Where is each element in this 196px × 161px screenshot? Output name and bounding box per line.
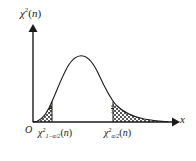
right-tail-numerator: α	[111, 103, 114, 108]
left-tail-denominator: 2	[49, 109, 52, 114]
left-tail-numerator: α	[49, 103, 52, 108]
x-axis-arrowhead	[172, 118, 180, 127]
chi-square-distribution-figure: χ2(chi-square probability density functi…	[0, 0, 196, 161]
right-tick-superscript: 2	[108, 126, 111, 133]
left-tick-argument: (n)	[60, 127, 72, 138]
left-tick-subscript: 1−α/2	[46, 133, 61, 139]
left-tail-shaded-region	[33, 56, 168, 122]
right-tail-shaded-region	[33, 56, 168, 122]
y-axis-label-argument: (chi-square probability density function…	[28, 7, 41, 19]
right-tick-argument: (n)	[119, 127, 131, 138]
density-curve	[33, 56, 168, 122]
left-tail-area-label: α 2	[49, 103, 52, 115]
right-tail-denominator: 2	[111, 109, 114, 114]
tick-label-left-critical-value: χ21−α/2(n)	[38, 126, 72, 139]
plot-canvas	[0, 0, 196, 161]
y-axis-label: χ2(chi-square probability density functi…	[20, 6, 41, 19]
y-axis-arrowhead	[29, 24, 38, 32]
tick-label-right-critical-value: χ2α/2(n)	[104, 126, 131, 139]
x-axis-label: x	[180, 113, 185, 125]
left-tick-superscript: 2	[42, 126, 45, 133]
right-tail-area-label: α 2	[111, 103, 114, 115]
origin-label: O	[25, 124, 32, 135]
